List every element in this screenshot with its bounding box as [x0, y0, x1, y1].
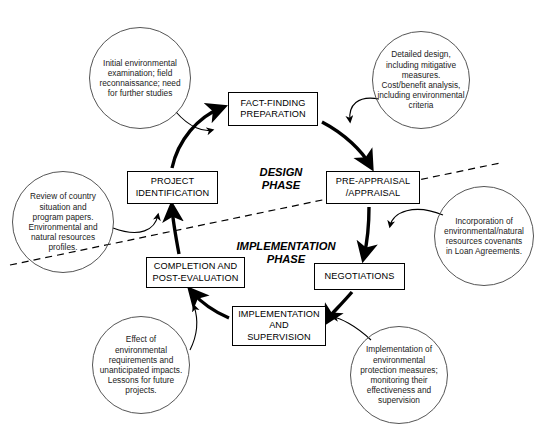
bubble-text-detailed-design: Detailed design, including mitigative me… [374, 49, 467, 110]
bubble-initial-environmental-examination[interactable]: Initial environmental examination; field… [89, 27, 191, 129]
connector-effect-of-environmental-to-cycle [190, 306, 197, 350]
bubble-effect-of-environmental-requirements[interactable]: Effect of environmental requirements and… [92, 316, 190, 414]
bubble-text-initial-environmental-examination: Initial environmental examination; field… [96, 58, 183, 99]
arrow-implementation-to-completion [192, 292, 229, 318]
connector-review-of-country-to-cycle [113, 215, 158, 232]
bubble-implementation-of-protection-measures[interactable]: Implementation of environmental protecti… [350, 326, 448, 424]
phase-label-design-text: DESIGN PHASE [260, 166, 303, 192]
stage-box-negotiations[interactable]: NEGOTIATIONS [314, 263, 405, 290]
bubble-review-of-country-situation[interactable]: Review of country situation and program … [12, 171, 114, 273]
arrow-pre-appraisal-to-negotiations [364, 207, 369, 256]
connector-implementation-measures-to-cycle [333, 317, 371, 340]
phase-label-design: DESIGN PHASE [236, 152, 326, 193]
arrow-negotiations-to-implementation [327, 292, 352, 320]
stage-box-completion-and-post-evaluation[interactable]: COMPLETION AND POST-EVALUATION [146, 257, 245, 288]
stage-box-implementation-and-supervision[interactable]: IMPLEMENTATION AND SUPERVISION [232, 306, 326, 346]
stage-label-fact-finding-preparation: FACT-FINDING PREPARATION [240, 98, 306, 121]
bubble-incorporation-of-covenants[interactable]: Incorporation of environmental/natural r… [434, 186, 534, 286]
bubble-detailed-design[interactable]: Detailed design, including mitigative me… [372, 31, 470, 129]
stage-box-fact-finding-preparation[interactable]: FACT-FINDING PREPARATION [228, 92, 318, 126]
stage-label-project-identification: PROJECT IDENTIFICATION [136, 176, 210, 199]
stage-label-completion-and-post-evaluation: COMPLETION AND POST-EVALUATION [153, 261, 239, 284]
diagram-canvas: DESIGN PHASE IMPLEMENTATION PHASE FACT-F… [0, 0, 541, 445]
bubble-text-review-of-country-situation: Review of country situation and program … [25, 191, 100, 252]
stage-box-project-identification[interactable]: PROJECT IDENTIFICATION [127, 171, 218, 204]
stage-label-pre-appraisal-appraisal: PRE-APPRAISAL /APPRAISAL [336, 176, 410, 199]
stage-box-pre-appraisal-appraisal[interactable]: PRE-APPRAISAL /APPRAISAL [326, 171, 420, 204]
arrow-project-identification-to-fact-finding [172, 108, 221, 168]
bubble-text-incorporation-of-covenants: Incorporation of environmental/natural r… [441, 216, 527, 257]
arrow-fact-finding-to-pre-appraisal [322, 122, 370, 165]
bubble-text-effect-of-environmental-requirements: Effect of environmental requirements and… [97, 334, 186, 395]
phase-label-implementation-text: IMPLEMENTATION PHASE [236, 240, 335, 266]
bubble-text-implementation-of-protection-measures: Implementation of environmental protecti… [357, 344, 440, 405]
stage-label-implementation-and-supervision: IMPLEMENTATION AND SUPERVISION [238, 309, 320, 344]
stage-label-negotiations: NEGOTIATIONS [325, 271, 395, 283]
